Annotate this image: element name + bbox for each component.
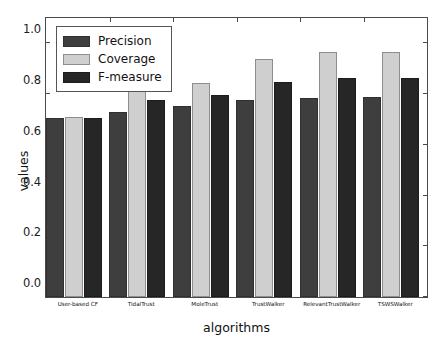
bar-f-measure <box>211 95 229 297</box>
y-tick-label: 0.4 <box>23 175 41 189</box>
bar-coverage <box>255 59 273 297</box>
chart-legend: PrecisionCoverageF-measure <box>56 26 172 92</box>
bar-f-measure <box>84 118 102 297</box>
y-tick-label: 0.2 <box>23 225 41 239</box>
bar-coverage <box>319 52 337 297</box>
x-tick-label: TidalTrust <box>128 301 155 307</box>
bar-precision <box>300 98 318 297</box>
x-tick-label: TrustWalker <box>252 301 284 307</box>
legend-item: F-measure <box>63 68 162 86</box>
plot-area: 0.00.20.40.60.81.0 User-based CFTidalTru… <box>45 17 428 298</box>
legend-item-label: Precision <box>98 34 152 48</box>
y-tick-mark <box>423 195 427 196</box>
y-tick-mark <box>423 245 427 246</box>
legend-swatch-icon <box>63 54 90 65</box>
bar-precision <box>363 97 381 297</box>
bar-f-measure <box>147 100 165 297</box>
bar-precision <box>236 100 254 297</box>
bar-coverage <box>192 83 210 297</box>
legend-item-label: F-measure <box>98 70 162 84</box>
y-tick-label: 0.8 <box>23 73 41 87</box>
x-tick-label: User-based CF <box>58 301 98 307</box>
y-tick-label: 0.6 <box>23 124 41 138</box>
bar-f-measure <box>338 78 356 297</box>
y-tick-mark <box>423 144 427 145</box>
y-tick-label: 1.0 <box>23 22 41 36</box>
x-tick-label: RelevantTrustWalker <box>303 301 360 307</box>
bar-group <box>236 18 292 297</box>
x-tick-label: TSWSWalker <box>378 301 413 307</box>
bar-coverage <box>128 89 146 297</box>
y-tick-label: 0.0 <box>23 276 41 290</box>
legend-swatch-icon <box>63 72 90 83</box>
bar-coverage <box>65 117 83 297</box>
legend-item: Precision <box>63 32 162 50</box>
bar-group <box>173 18 229 297</box>
legend-item: Coverage <box>63 50 162 68</box>
bar-precision <box>109 112 127 297</box>
legend-swatch-icon <box>63 36 90 47</box>
bar-coverage <box>382 52 400 297</box>
x-tick-label: MoleTrust <box>191 301 218 307</box>
bar-group <box>300 18 356 297</box>
y-tick-mark <box>423 42 427 43</box>
bar-precision <box>46 118 64 297</box>
y-tick-mark <box>423 296 427 297</box>
legend-item-label: Coverage <box>98 52 156 66</box>
y-tick-mark <box>423 93 427 94</box>
bar-f-measure <box>401 78 419 297</box>
bar-group <box>363 18 419 297</box>
x-axis-label: algorithms <box>45 320 428 335</box>
bar-chart-figure: values algorithms 0.00.20.40.60.81.0 Use… <box>0 0 438 341</box>
bar-precision <box>173 106 191 297</box>
bar-f-measure <box>274 82 292 297</box>
